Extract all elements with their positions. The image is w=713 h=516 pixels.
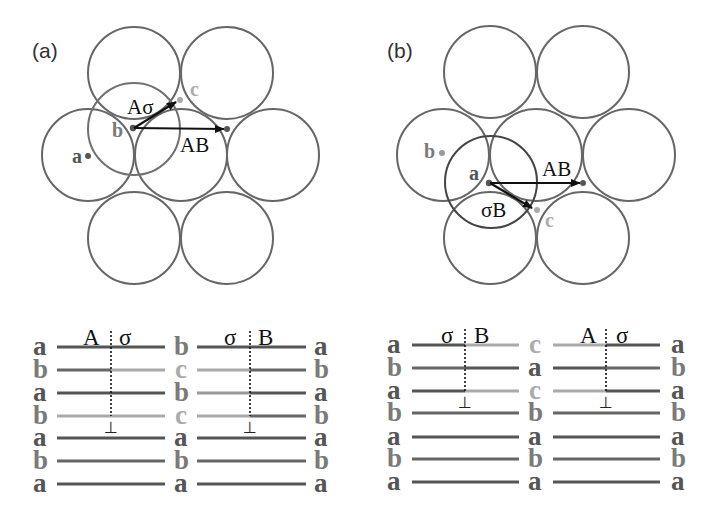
panel-a-atom-packing: (a) a b c Aσ AB — [32, 27, 319, 284]
panel-b-label: (b) — [387, 39, 413, 62]
dislocation-symbol: ⊥ — [243, 418, 257, 437]
dislocation-symbol: ⊥ — [104, 418, 118, 437]
atom-circle — [444, 26, 536, 118]
panel-b-atom-circles — [397, 26, 675, 284]
column-3-letters: a b a b a b a — [671, 329, 686, 496]
layer-letter: a — [174, 468, 188, 498]
point-b-label: b — [112, 119, 123, 141]
column-2-letters: c a c b a b a — [528, 329, 543, 496]
vector-ab-label: AB — [542, 157, 571, 181]
figure: (a) a b c Aσ AB (b) — [0, 0, 713, 516]
panel-a-label: (a) — [32, 39, 58, 62]
point-a-label: a — [72, 145, 82, 167]
panel-b-stacking-diagram: σ B A σ a b a b a b a c a c b a b a a b … — [387, 323, 686, 496]
point-a-label: a — [469, 162, 479, 184]
atom-circle — [181, 192, 273, 284]
layer-letter: a — [671, 466, 685, 496]
column-2-letters: b c b c a b a — [174, 331, 189, 498]
layer-letter: a — [314, 468, 328, 498]
point-b-label: b — [424, 140, 435, 162]
panel-a-stacking-diagram: A σ σ B a b a b a b a b c b c a b a a b … — [33, 325, 329, 498]
atom-circle — [583, 109, 675, 201]
point-a-dot — [85, 153, 91, 159]
right-layer-lines — [197, 347, 306, 484]
vector-ab-end-dot — [224, 126, 230, 132]
atom-circle — [537, 192, 629, 284]
atom-circle — [537, 26, 629, 118]
point-c-dot — [534, 207, 540, 213]
atom-circle — [227, 109, 319, 201]
dislocation-symbol: ⊥ — [599, 393, 613, 412]
point-c-label: c — [545, 209, 554, 231]
layer-letter: a — [528, 466, 542, 496]
layer-letter: a — [33, 468, 47, 498]
panel-b-atom-packing: (b) b a c AB σB — [387, 26, 675, 284]
vector-ab-label: AB — [180, 133, 209, 157]
vector-a-sigma-label: Aσ — [127, 95, 154, 119]
atom-circle — [181, 27, 273, 119]
column-3-letters: a b a b a b a — [314, 331, 329, 498]
dislocation-symbol: ⊥ — [458, 393, 472, 412]
layer-letter: a — [387, 466, 401, 496]
point-c-dot — [177, 97, 183, 103]
vector-ab-end-dot — [580, 180, 586, 186]
atom-circle — [88, 192, 180, 284]
vector-ab-arrow — [134, 128, 224, 129]
point-c-label: c — [190, 78, 199, 100]
point-b-dot — [439, 150, 445, 156]
column-1-letters: a b a b a b a — [387, 329, 402, 496]
column-1-letters: a b a b a b a — [33, 331, 48, 498]
vector-sigma-b-label: σB — [481, 198, 506, 222]
